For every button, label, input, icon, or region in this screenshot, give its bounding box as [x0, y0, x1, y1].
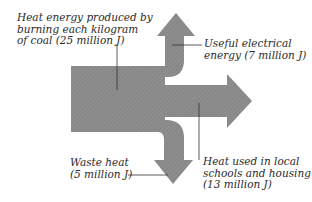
input-label-line-3: of coal (25 million J) [17, 35, 153, 47]
electrical-label-line-1: Useful electrical [204, 38, 306, 50]
schools-housing-arrow [160, 74, 252, 128]
waste-label-line-2: (5 million J) [70, 169, 132, 181]
sankey-diagram: Heat energy produced by burning each kil… [0, 0, 312, 202]
schools-housing-label: Heat used in local schools and housing (… [203, 156, 311, 191]
schools-label-line-3: (13 million J) [203, 179, 311, 191]
schools-label-line-1: Heat used in local [203, 156, 311, 168]
waste-label-line-1: Waste heat [70, 157, 132, 169]
electrical-energy-label: Useful electrical energy (7 million J) [204, 38, 306, 61]
waste-heat-arrow [154, 120, 193, 184]
waste-heat-label: Waste heat (5 million J) [70, 157, 132, 180]
input-label-line-1: Heat energy produced by [17, 12, 153, 24]
electrical-label-line-2: energy (7 million J) [204, 50, 306, 62]
input-energy-label: Heat energy produced by burning each kil… [17, 12, 153, 47]
input-energy-block [71, 66, 165, 132]
